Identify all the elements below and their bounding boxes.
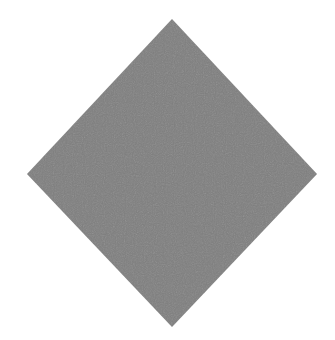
diamond-shape <box>27 19 317 327</box>
diamond-graphic <box>0 0 335 340</box>
canvas <box>0 0 335 340</box>
